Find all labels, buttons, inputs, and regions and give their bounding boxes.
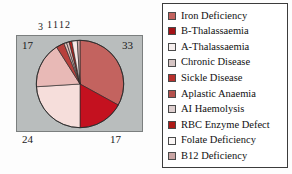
- legend-item[interactable]: AI Haemolysis: [168, 102, 287, 118]
- legend-item-label: Sickle Disease: [181, 73, 243, 84]
- pie-chart-figure: 3 1 1 1 2 33 17 24 17 Iron DeficiencyB-T…: [0, 0, 292, 174]
- slice-label-a-thalassaemia: 24: [22, 134, 33, 145]
- slice-label-aplastic-anaemia: 1: [47, 20, 52, 30]
- legend-item[interactable]: Aplastic Anaemia: [168, 86, 287, 102]
- legend-item[interactable]: Sickle Disease: [168, 70, 287, 86]
- slice-label-ai-haemolysis: 1: [53, 20, 58, 30]
- legend-swatch-icon: [168, 121, 176, 129]
- legend-swatch-icon: [168, 27, 176, 35]
- legend-item-label: Chronic Disease: [181, 57, 250, 68]
- legend-swatch-icon: [168, 105, 176, 113]
- legend-item[interactable]: B12 Deficiency: [168, 148, 287, 164]
- legend-item[interactable]: A-Thalassaemia: [168, 39, 287, 55]
- legend-item-label: A-Thalassaemia: [181, 42, 249, 53]
- legend-item-label: AI Haemolysis: [181, 104, 244, 115]
- pie-slice[interactable]: [36, 84, 80, 128]
- legend-item-label: Iron Deficiency: [181, 11, 247, 22]
- legend: Iron DeficiencyB-ThalassaemiaA-Thalassae…: [162, 3, 288, 168]
- legend-item-label: Folate Deficiency: [181, 135, 256, 146]
- legend-item[interactable]: Folate Deficiency: [168, 133, 287, 149]
- legend-swatch-icon: [168, 12, 176, 20]
- legend-item[interactable]: B-Thalassaemia: [168, 24, 287, 40]
- chart-panel: 3 1 1 1 2 33 17 24 17: [0, 0, 158, 174]
- legend-swatch-icon: [168, 152, 176, 160]
- thin-slice-label-group: 3 1 1 1 2: [38, 20, 118, 34]
- slice-label-chronic-disease: 17: [22, 40, 33, 51]
- slice-label-folate-deficiency: 2: [65, 20, 70, 30]
- pie-svg: [34, 38, 126, 130]
- slice-label-sickle-disease: 3: [38, 22, 43, 32]
- legend-swatch-icon: [168, 74, 176, 82]
- legend-swatch-icon: [168, 59, 176, 67]
- legend-item-label: B-Thalassaemia: [181, 26, 249, 37]
- legend-swatch-icon: [168, 137, 176, 145]
- legend-item-label: RBC Enzyme Defect: [181, 120, 270, 131]
- legend-item[interactable]: Chronic Disease: [168, 55, 287, 71]
- pie-graphic: [34, 38, 126, 130]
- legend-item-label: B12 Deficiency: [181, 151, 247, 162]
- legend-item[interactable]: RBC Enzyme Defect: [168, 117, 287, 133]
- slice-label-rbc-enzyme-defect: 1: [59, 20, 64, 30]
- legend-swatch-icon: [168, 90, 176, 98]
- slice-label-b-thalassaemia: 17: [110, 134, 121, 145]
- legend-item-label: Aplastic Anaemia: [181, 89, 256, 100]
- legend-swatch-icon: [168, 43, 176, 51]
- slice-label-iron-deficiency: 33: [122, 40, 133, 51]
- legend-item[interactable]: Iron Deficiency: [168, 8, 287, 24]
